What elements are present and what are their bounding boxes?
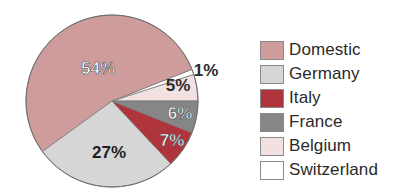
- legend-item-switzerland: Switzerland: [260, 158, 378, 182]
- legend-item-germany: Germany: [260, 62, 378, 86]
- legend-swatch-italy: [260, 89, 284, 108]
- pie-chart: 5%1%54%27%7%6%: [0, 0, 230, 196]
- slice-label-italy: 7%: [160, 131, 185, 150]
- slice-label-domestic: 54%: [81, 59, 115, 78]
- legend-item-italy: Italy: [260, 86, 378, 110]
- legend-swatch-domestic: [260, 41, 284, 60]
- legend-item-belgium: Belgium: [260, 134, 378, 158]
- legend-label: France: [289, 112, 343, 132]
- legend: Domestic Germany Italy France Belgium Sw…: [260, 38, 378, 182]
- legend-swatch-switzerland: [260, 161, 284, 180]
- slice-label-switzerland: 1%: [194, 61, 219, 80]
- legend-label: Domestic: [289, 40, 361, 60]
- legend-label: Switzerland: [289, 160, 378, 180]
- legend-swatch-germany: [260, 65, 284, 84]
- legend-item-domestic: Domestic: [260, 38, 378, 62]
- legend-label: Belgium: [289, 136, 351, 156]
- slice-label-france: 6%: [168, 104, 193, 123]
- legend-label: Italy: [289, 88, 321, 108]
- slice-label-belgium: 5%: [166, 76, 191, 95]
- legend-swatch-france: [260, 113, 284, 132]
- legend-item-france: France: [260, 110, 378, 134]
- slice-label-germany: 27%: [92, 143, 126, 162]
- legend-swatch-belgium: [260, 137, 284, 156]
- legend-label: Germany: [289, 64, 360, 84]
